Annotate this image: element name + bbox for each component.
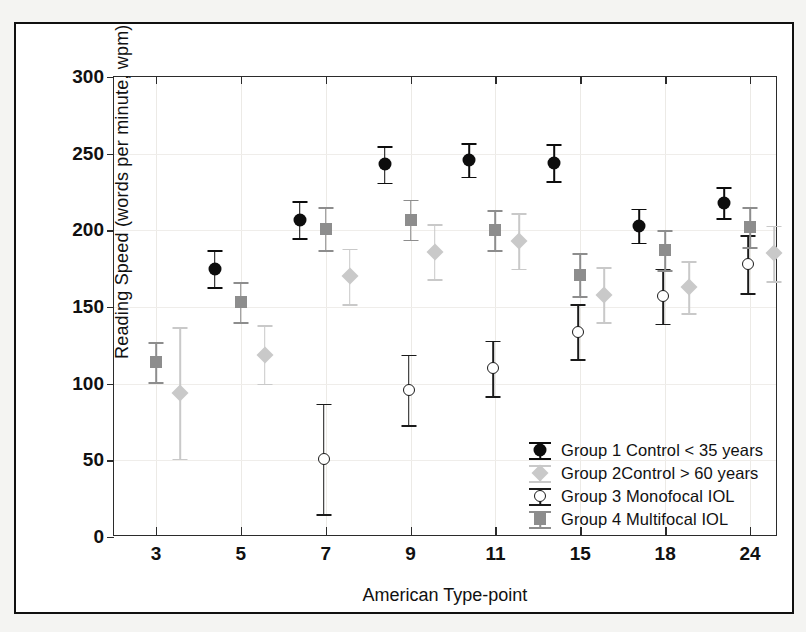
data-point-marker-open-circle (534, 490, 546, 502)
legend-item: Group 4 Multifocal IOL (521, 508, 771, 531)
legend-label: Group 3 Monofocal IOL (561, 487, 735, 506)
chart-legend: Group 1 Control < 35 yearsGroup 2Control… (519, 435, 773, 535)
data-point-marker-square (534, 513, 546, 525)
x-axis-tick-label: 15 (570, 543, 591, 565)
x-axis-tick-label: 7 (320, 543, 331, 565)
x-axis-tick-top (665, 77, 666, 84)
x-axis-tick-top (156, 77, 157, 84)
x-axis-tick-label: 18 (655, 543, 676, 565)
y-axis-tick-label: 150 (54, 296, 104, 318)
plot-area: 050100150200250300 357911151824 Reading … (113, 76, 777, 536)
data-point-marker-filled-circle (534, 444, 547, 457)
y-axis-tick-label: 250 (54, 143, 104, 165)
legend-marker-open-circle (521, 485, 561, 508)
y-axis-tick (107, 384, 114, 385)
x-axis-tick-label: 3 (151, 543, 162, 565)
legend-marker-diamond (521, 462, 561, 485)
x-axis-tick-top (326, 77, 327, 84)
legend-label: Group 4 Multifocal IOL (561, 510, 728, 529)
x-axis-tick (241, 527, 242, 535)
x-axis-tick-top (241, 77, 242, 84)
legend-marker-filled-circle (521, 439, 561, 462)
x-axis-title: American Type-point (114, 585, 776, 606)
legend-label: Group 1 Control < 35 years (561, 441, 763, 460)
x-axis-tick-top (750, 77, 751, 84)
x-axis-tick-label: 24 (739, 543, 760, 565)
legend-label: Group 2Control > 60 years (561, 464, 758, 483)
legend-item: Group 3 Monofocal IOL (521, 485, 771, 508)
y-axis-title: Reading Speed (words per minute, wpm) (112, 24, 133, 359)
y-axis-tick-label: 0 (54, 526, 104, 548)
y-axis-tick-label: 50 (54, 449, 104, 471)
x-axis-tick (326, 527, 327, 535)
x-axis-tick (495, 527, 496, 535)
y-axis-tick-label: 300 (54, 66, 104, 88)
x-axis-tick-label: 9 (405, 543, 416, 565)
legend-item: Group 2Control > 60 years (521, 462, 771, 485)
legend-marker-square (521, 508, 561, 531)
y-axis-tick-label: 100 (54, 373, 104, 395)
y-axis-tick-label: 200 (54, 219, 104, 241)
scanned-figure-frame: 050100150200250300 357911151824 Reading … (14, 22, 794, 614)
data-point-marker-diamond (532, 465, 549, 482)
x-axis-tick-label: 5 (236, 543, 247, 565)
y-axis-tick (107, 460, 114, 461)
x-axis-tick (156, 527, 157, 535)
x-axis-tick (411, 527, 412, 535)
x-axis-tick-top (411, 77, 412, 84)
y-axis-tick (107, 537, 114, 538)
x-axis-tick-top (580, 77, 581, 84)
page-root: 050100150200250300 357911151824 Reading … (0, 0, 806, 632)
legend-item: Group 1 Control < 35 years (521, 439, 771, 462)
x-axis-tick-label: 11 (485, 543, 505, 565)
x-axis-tick-top (495, 77, 496, 84)
